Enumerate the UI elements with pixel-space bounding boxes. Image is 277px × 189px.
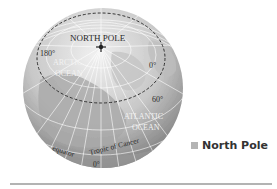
legend-swatch [191, 142, 198, 149]
legend: North Pole [191, 139, 268, 152]
label-arctic-ocean: OCEAN [55, 69, 83, 78]
label-atlantic: ATLANTIC [124, 112, 163, 121]
label-equator-0-degrees: 0° [93, 160, 100, 169]
bottom-divider [10, 183, 272, 185]
legend-label-north-pole: North Pole [202, 139, 268, 152]
label-180-degrees: 180° [40, 49, 55, 58]
label-60-degrees: 60° [152, 95, 163, 104]
label-atlantic-ocean: OCEAN [132, 123, 160, 132]
label-north-pole: NORTH POLE [70, 33, 126, 43]
north-pole-globe: NORTH POLE 180° ARCTIC OCEAN 0° 60° ATLA… [0, 0, 210, 180]
label-0-degrees-meridian: 0° [149, 61, 156, 70]
label-arctic: ARCTIC [53, 58, 82, 67]
